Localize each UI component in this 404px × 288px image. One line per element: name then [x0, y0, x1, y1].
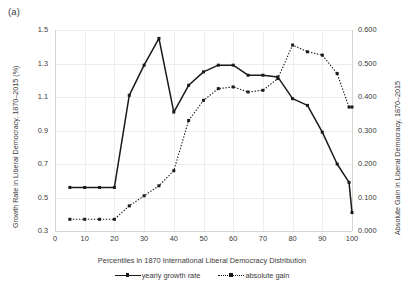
data-point-marker	[291, 44, 294, 47]
plot-area	[55, 30, 352, 231]
series-absolute-gain	[68, 44, 353, 221]
data-point-marker	[247, 90, 250, 93]
x-axis-tick-label: 10	[73, 234, 97, 243]
x-axis-tick-label: 20	[102, 234, 126, 243]
data-point-marker	[172, 169, 175, 172]
data-point-marker	[247, 74, 250, 77]
data-point-marker	[336, 163, 339, 166]
data-point-marker	[348, 181, 351, 184]
legend-label: yearly growth rate	[142, 271, 201, 280]
data-point-marker	[83, 218, 86, 221]
y-axis-right-tick-label: 0.600	[358, 25, 392, 34]
data-point-marker	[217, 87, 220, 90]
data-point-marker	[306, 104, 309, 107]
chart-legend: yearly growth rateabsolute gain	[0, 270, 404, 280]
legend-swatch-icon	[115, 272, 141, 279]
data-point-marker	[336, 72, 339, 75]
data-point-marker	[128, 204, 131, 207]
y-axis-right-tick-label: 0.300	[358, 126, 392, 135]
panel-label: (a)	[8, 6, 20, 17]
data-point-marker	[128, 94, 131, 97]
y-axis-left-label: Growth Rate in Liberal Democracy, 1870–2…	[11, 66, 20, 228]
chart-figure: (a) Growth Rate in Liberal Democracy, 18…	[0, 0, 404, 288]
data-point-marker	[261, 74, 264, 77]
data-point-marker	[157, 37, 160, 40]
data-point-marker	[83, 186, 86, 189]
y-axis-right-tick-label: 0.200	[358, 159, 392, 168]
series-yearly-growth-rate	[68, 37, 353, 214]
y-axis-right-tick-label: 0.400	[358, 92, 392, 101]
x-axis-tick-label: 0	[43, 234, 67, 243]
legend-item: absolute gain	[218, 270, 289, 280]
data-point-marker	[68, 218, 71, 221]
data-point-marker	[143, 194, 146, 197]
y-axis-left-tick-label: 1.1	[18, 92, 48, 101]
x-axis-tick-label: 50	[192, 234, 216, 243]
x-axis-tick-label: 70	[251, 234, 275, 243]
data-point-marker	[113, 186, 116, 189]
data-point-marker	[187, 84, 190, 87]
axis-line-right	[352, 30, 353, 231]
series-layer	[55, 30, 352, 231]
data-point-marker	[143, 64, 146, 67]
data-point-marker	[217, 64, 220, 67]
data-point-marker	[291, 97, 294, 100]
data-point-marker	[306, 50, 309, 53]
x-axis-tick-label: 90	[310, 234, 334, 243]
y-axis-left-tick-label: 0.9	[18, 126, 48, 135]
axis-line-bottom	[55, 231, 352, 232]
data-point-marker	[232, 85, 235, 88]
data-point-marker	[351, 211, 354, 214]
y-axis-left-tick-label: 0.5	[18, 193, 48, 202]
legend-label: absolute gain	[245, 271, 289, 280]
y-axis-left-tick-label: 1.5	[18, 25, 48, 34]
data-point-marker	[172, 111, 175, 114]
data-point-marker	[348, 106, 351, 109]
y-axis-right-tick-label: 0.500	[358, 59, 392, 68]
data-point-marker	[157, 184, 160, 187]
data-point-marker	[98, 218, 101, 221]
x-axis-tick-label: 100	[340, 234, 364, 243]
data-point-marker	[187, 119, 190, 122]
data-point-marker	[261, 89, 264, 92]
x-axis-label: Percentiles in 1870 International Libera…	[0, 256, 404, 265]
legend-swatch-icon	[218, 272, 244, 279]
x-axis-tick-label: 30	[132, 234, 156, 243]
data-point-marker	[321, 131, 324, 134]
data-point-marker	[351, 106, 354, 109]
y-axis-left-tick-label: 1.3	[18, 59, 48, 68]
data-point-marker	[232, 64, 235, 67]
x-axis-tick-label: 60	[221, 234, 245, 243]
y-axis-right-tick-label: 0.100	[358, 193, 392, 202]
data-point-marker	[321, 54, 324, 57]
data-point-marker	[202, 99, 205, 102]
data-point-marker	[98, 186, 101, 189]
y-axis-left-tick-label: 0.7	[18, 159, 48, 168]
y-axis-right-label: Absolute Gain in Liberal Democracy, 1870…	[393, 81, 402, 235]
x-axis-tick-label: 80	[281, 234, 305, 243]
data-point-marker	[68, 186, 71, 189]
data-point-marker	[113, 218, 116, 221]
legend-item: yearly growth rate	[115, 270, 201, 280]
x-axis-tick-label: 40	[162, 234, 186, 243]
data-point-marker	[276, 77, 279, 80]
data-point-marker	[202, 70, 205, 73]
